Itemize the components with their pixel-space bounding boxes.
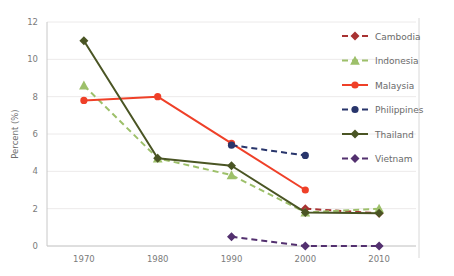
series-malaysia [80, 93, 309, 194]
y-axis-tick-labels: 024681012 [27, 17, 38, 251]
y-axis-title-text: Percent (%) [10, 109, 20, 158]
legend-label: Vietnam [375, 154, 413, 164]
x-tick-label: 2000 [294, 254, 316, 264]
y-tick-label: 6 [33, 129, 38, 139]
data-point-marker [351, 81, 358, 88]
data-point-marker [351, 32, 360, 41]
x-tick-label: 1970 [73, 254, 95, 264]
x-tick-label: 2010 [368, 254, 390, 264]
legend-item-cambodia[interactable]: Cambodia [342, 32, 421, 42]
series-line [84, 85, 379, 212]
data-point-marker [351, 106, 358, 113]
y-tick-label: 2 [33, 204, 38, 214]
data-point-marker [154, 93, 161, 100]
legend-item-malaysia[interactable]: Malaysia [342, 81, 414, 91]
y-axis-title: Percent (%) [10, 109, 20, 158]
series-line [84, 41, 379, 214]
x-tick-label: 1990 [221, 254, 243, 264]
legend-label: Cambodia [375, 32, 421, 42]
y-tick-label: 10 [27, 54, 38, 64]
series-vietnam [227, 232, 384, 250]
legend-label: Thailand [374, 130, 414, 140]
y-tick-label: 8 [33, 92, 38, 102]
data-point-marker [80, 97, 87, 104]
legend-label: Indonesia [375, 56, 419, 66]
data-point-marker [351, 154, 360, 163]
x-axis-tick-labels: 19701980199020002010 [73, 254, 390, 264]
series-philippines [228, 142, 309, 159]
chart-canvas: 024681012 19701980199020002010 Percent (… [0, 0, 454, 276]
data-point-marker [375, 242, 384, 251]
legend-item-philippines[interactable]: Philippines [342, 105, 424, 115]
data-point-marker [351, 130, 360, 139]
y-tick-label: 4 [33, 166, 38, 176]
data-point-marker [228, 142, 235, 149]
series-thailand [79, 36, 383, 218]
data-point-marker [301, 242, 310, 251]
chart-legend: CambodiaIndonesiaMalaysiaPhilippinesThai… [342, 18, 424, 258]
data-point-marker [79, 81, 89, 90]
legend-item-thailand[interactable]: Thailand [342, 130, 414, 140]
y-tick-label: 12 [27, 17, 38, 27]
line-chart: 024681012 19701980199020002010 Percent (… [0, 0, 454, 276]
legend-label: Malaysia [375, 81, 414, 91]
data-point-marker [350, 56, 360, 65]
data-point-marker [302, 152, 309, 159]
legend-label: Philippines [375, 105, 424, 115]
x-tick-label: 1980 [147, 254, 169, 264]
data-point-marker [227, 232, 236, 241]
legend-item-vietnam[interactable]: Vietnam [342, 154, 413, 164]
y-tick-label: 0 [33, 241, 38, 251]
legend-item-indonesia[interactable]: Indonesia [342, 56, 419, 66]
series-line [84, 97, 305, 190]
data-series [79, 36, 384, 250]
data-point-marker [302, 186, 309, 193]
